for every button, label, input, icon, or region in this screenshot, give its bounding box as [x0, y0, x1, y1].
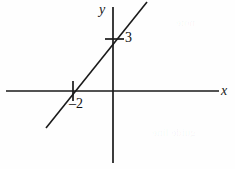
x-axis-label: x [221, 84, 227, 98]
coordinate-plane-drawing [0, 0, 235, 169]
x-intercept-label: –2 [69, 97, 83, 111]
y-axis-label: y [99, 3, 105, 17]
plotted-line [46, 2, 147, 128]
graph-figure: y x 3 –2 guide line note [0, 0, 235, 169]
y-intercept-label: 3 [125, 31, 132, 45]
